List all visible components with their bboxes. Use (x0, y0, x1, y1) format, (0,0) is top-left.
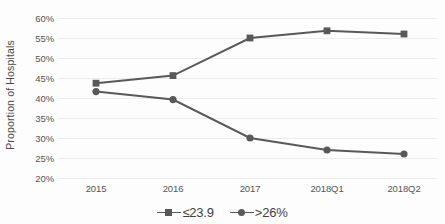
plot-area (58, 18, 437, 178)
x-axis-tick-label: 2018Q1 (310, 183, 343, 194)
data-point-marker (400, 150, 407, 157)
legend-item[interactable]: >26% (230, 205, 288, 220)
series-line (96, 92, 404, 154)
gridline (58, 178, 437, 179)
data-point-marker (324, 27, 331, 34)
chart-legend: ≤23.9>26% (0, 202, 445, 222)
data-point-marker (92, 88, 99, 95)
y-axis-tick-label: 45% (6, 73, 54, 84)
y-axis-tick-label: 60% (6, 13, 54, 24)
y-axis-tick-label: 30% (6, 133, 54, 144)
x-axis-tick-labels: 2015201620172018Q12018Q2 (58, 183, 437, 199)
data-point-marker (170, 72, 177, 79)
x-axis-tick-label: 2016 (163, 183, 184, 194)
legend-square-marker-icon (157, 206, 181, 218)
data-point-marker (246, 134, 253, 141)
y-axis-tick-label: 20% (6, 173, 54, 184)
y-axis-tick-label: 35% (6, 113, 54, 124)
data-point-marker (401, 31, 408, 38)
y-axis-tick-label: 40% (6, 93, 54, 104)
legend-item-label: ≤23.9 (182, 205, 213, 220)
y-axis-tick-label: 25% (6, 153, 54, 164)
data-point-marker (169, 96, 176, 103)
legend-item-label: >26% (255, 205, 288, 220)
x-axis-tick-label: 2017 (240, 183, 261, 194)
x-axis-tick-label: 2015 (86, 183, 107, 194)
y-axis-tick-labels: 20%25%30%35%40%45%50%55%60% (0, 18, 54, 178)
legend-item[interactable]: ≤23.9 (157, 205, 213, 220)
series-canvas (58, 18, 437, 178)
data-point-marker (93, 80, 100, 87)
y-axis-tick-label: 55% (6, 33, 54, 44)
x-axis-tick-label: 2018Q2 (387, 183, 420, 194)
legend-circle-marker-icon (230, 206, 254, 218)
data-point-marker (323, 146, 330, 153)
data-point-marker (247, 35, 254, 42)
y-axis-tick-label: 50% (6, 53, 54, 64)
line-chart: Proportion of Hospitals 20%25%30%35%40%4… (0, 0, 445, 224)
